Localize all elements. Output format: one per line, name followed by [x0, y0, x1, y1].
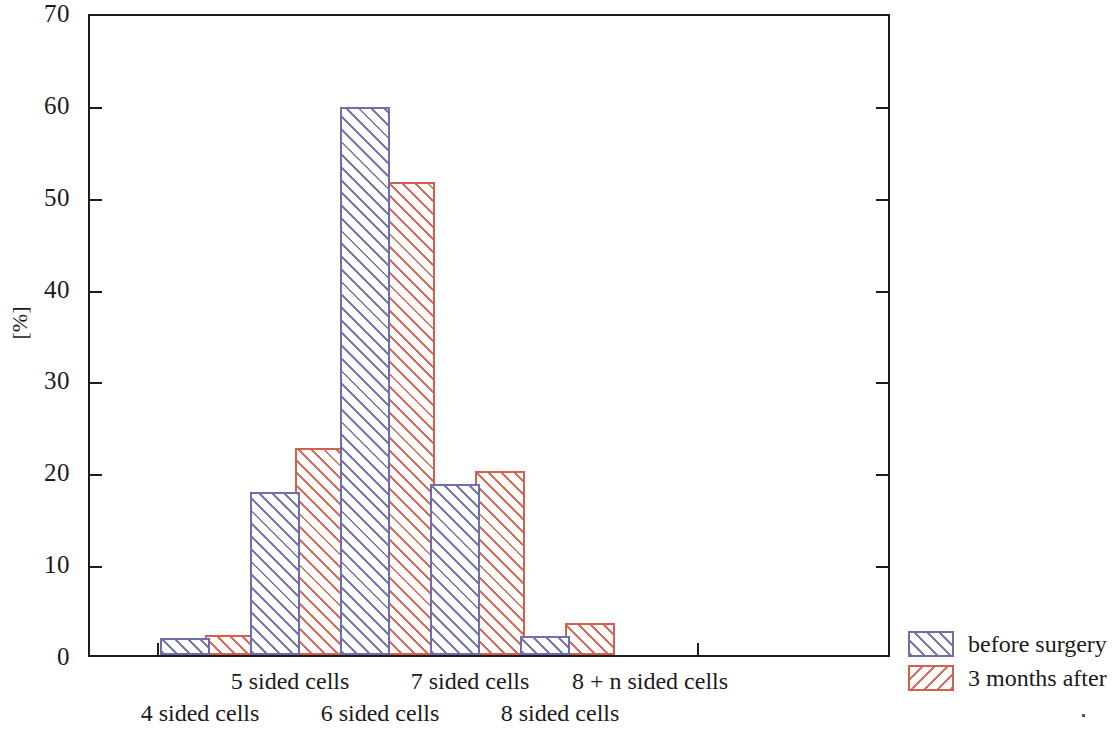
legend-label-before-surgery: before surgery — [968, 632, 1107, 656]
y-axis-tick-mark — [876, 474, 888, 476]
bar-before-surgery — [520, 636, 570, 655]
bar-3-months-after — [295, 448, 345, 655]
y-axis-tick-mark — [90, 199, 102, 201]
y-axis-tick-label: 20 — [8, 460, 70, 485]
y-axis-tick-label: 10 — [8, 552, 70, 577]
legend: before surgery 3 months after — [908, 627, 1107, 695]
legend-swatch-icon-3-months-after — [908, 665, 954, 691]
y-axis-tick-label: 30 — [8, 368, 70, 393]
y-axis-tick-mark — [90, 474, 102, 476]
legend-label-3-months-after: 3 months after — [968, 666, 1107, 690]
legend-swatch-icon-before-surgery — [908, 631, 954, 657]
y-axis-tick-mark — [876, 107, 888, 109]
y-axis-tick-mark — [876, 199, 888, 201]
page-corner-mark — [1082, 714, 1085, 717]
x-axis-category-label: 8 + n sided cells — [525, 668, 775, 694]
plot-area — [88, 14, 890, 657]
y-axis-tick-label: 70 — [8, 1, 70, 26]
x-axis-category-label: 8 sided cells — [435, 700, 685, 726]
y-axis-tick-mark — [90, 107, 102, 109]
bar-before-surgery — [430, 484, 480, 655]
bar-before-surgery — [250, 492, 300, 656]
bar-before-surgery — [340, 107, 390, 655]
y-axis-tick-mark — [876, 566, 888, 568]
bar-3-months-after — [385, 182, 435, 655]
y-axis-tick-label: 60 — [8, 93, 70, 118]
legend-item-3-months-after[interactable]: 3 months after — [908, 661, 1107, 695]
y-axis-tick-mark — [876, 382, 888, 384]
x-axis-tick-mark — [157, 643, 159, 655]
y-axis-tick-label: 0 — [8, 644, 70, 669]
y-axis-tick-mark — [90, 566, 102, 568]
legend-item-before-surgery[interactable]: before surgery — [908, 627, 1107, 661]
y-axis-tick-label: 50 — [8, 185, 70, 210]
bar-3-months-after — [475, 471, 525, 655]
y-axis-tick-mark — [90, 291, 102, 293]
bar-3-months-after — [205, 635, 255, 655]
bar-before-surgery — [160, 638, 210, 655]
bar-chart-figure: [%] 010203040506070 4 sided cells5 sided… — [0, 0, 1113, 729]
y-axis-tick-mark — [876, 291, 888, 293]
bar-3-months-after — [565, 623, 615, 655]
y-axis-label: [%] — [7, 307, 33, 340]
x-axis-tick-mark — [697, 643, 699, 655]
y-axis-tick-label: 40 — [8, 277, 70, 302]
y-axis-tick-mark — [90, 382, 102, 384]
